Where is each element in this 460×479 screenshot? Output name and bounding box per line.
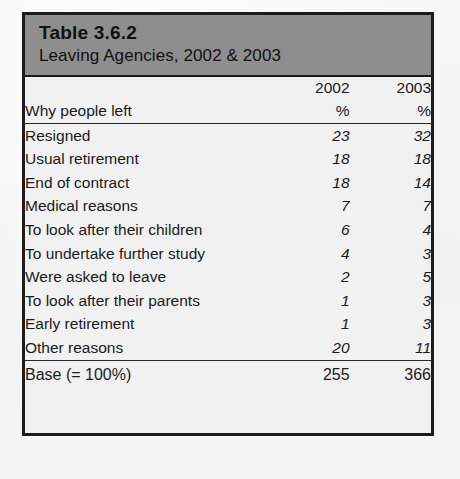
row-label: End of contract <box>25 171 271 195</box>
table-row: End of contract 18 14 <box>25 171 431 195</box>
row-label: Resigned <box>25 123 271 147</box>
row-label: To undertake further study <box>25 242 271 266</box>
row-value-2002: 23 <box>271 123 349 147</box>
row-value-2003: 7 <box>350 194 431 218</box>
data-table: 2002 2003 Why people left % % Resigned 2… <box>25 77 431 389</box>
row-value-2002: 2 <box>271 265 349 289</box>
row-value-2002: 18 <box>271 147 349 171</box>
table-row: Resigned 23 32 <box>25 123 431 147</box>
row-value-2002: 4 <box>271 242 349 266</box>
table-row: To undertake further study 4 3 <box>25 242 431 266</box>
table-row: To look after their children 6 4 <box>25 218 431 242</box>
header-spacer <box>25 77 271 99</box>
table-row: Were asked to leave 2 5 <box>25 265 431 289</box>
row-label: Medical reasons <box>25 194 271 218</box>
table-base-row: Base (= 100%) 255 366 <box>25 360 431 389</box>
row-value-2002: 20 <box>271 336 349 360</box>
base-label: Base (= 100%) <box>25 360 271 389</box>
unit-2002: % <box>271 99 349 123</box>
row-label: Usual retirement <box>25 147 271 171</box>
row-value-2003: 3 <box>350 312 431 336</box>
column-header-years: 2002 2003 <box>25 77 431 99</box>
row-value-2003: 4 <box>350 218 431 242</box>
base-value-2002: 255 <box>271 360 349 389</box>
table-row: Usual retirement 18 18 <box>25 147 431 171</box>
table-body: 2002 2003 Why people left % % Resigned 2… <box>25 77 431 433</box>
row-value-2003: 11 <box>350 336 431 360</box>
row-label: Early retirement <box>25 312 271 336</box>
table-caption: Leaving Agencies, 2002 & 2003 <box>39 45 417 66</box>
row-label-header: Why people left <box>25 99 271 123</box>
statistical-table: Table 3.6.2 Leaving Agencies, 2002 & 200… <box>22 12 434 436</box>
row-value-2003: 3 <box>350 242 431 266</box>
row-value-2002: 18 <box>271 171 349 195</box>
table-row: To look after their parents 1 3 <box>25 289 431 313</box>
row-value-2002: 1 <box>271 289 349 313</box>
row-value-2002: 1 <box>271 312 349 336</box>
row-value-2003: 5 <box>350 265 431 289</box>
row-value-2003: 3 <box>350 289 431 313</box>
unit-2003: % <box>350 99 431 123</box>
column-header-units: Why people left % % <box>25 99 431 123</box>
base-value-2003: 366 <box>350 360 431 389</box>
table-row: Early retirement 1 3 <box>25 312 431 336</box>
table-row: Medical reasons 7 7 <box>25 194 431 218</box>
column-header-2002: 2002 <box>271 77 349 99</box>
table-row: Other reasons 20 11 <box>25 336 431 360</box>
row-value-2003: 14 <box>350 171 431 195</box>
table-number: Table 3.6.2 <box>39 22 417 44</box>
table-title-band: Table 3.6.2 Leaving Agencies, 2002 & 200… <box>25 15 431 77</box>
row-label: Other reasons <box>25 336 271 360</box>
column-header-2003: 2003 <box>350 77 431 99</box>
row-label: To look after their parents <box>25 289 271 313</box>
row-value-2003: 32 <box>350 123 431 147</box>
row-label: Were asked to leave <box>25 265 271 289</box>
row-label: To look after their children <box>25 218 271 242</box>
row-value-2002: 6 <box>271 218 349 242</box>
row-value-2002: 7 <box>271 194 349 218</box>
row-value-2003: 18 <box>350 147 431 171</box>
